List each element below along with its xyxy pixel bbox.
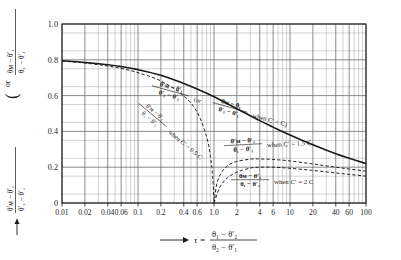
x-title-denominator: θ₂ − θ′₁ (212, 242, 237, 252)
x-tick-label: 20 (309, 208, 317, 217)
annotation-15c-numerator: θ′ᴍ − θ′₁ (230, 136, 254, 144)
x-tick-label: 0.01 (55, 208, 68, 217)
x-tick-label: 60 (345, 208, 353, 217)
y-title-upper-denominator: θ₁ − θ′₁ (17, 51, 26, 73)
y-tick-label: 0.6 (48, 92, 58, 101)
y-tick-label: 0 (54, 199, 58, 208)
x-title-numerator: θ₁ − θ′₂ (212, 229, 237, 239)
annotation-2c-denominator: θ₁ − θ′₁ (240, 180, 260, 187)
annotation-2c-condition: when C′ = 2 C (274, 178, 314, 185)
x-tick-label: 4 (258, 208, 262, 217)
annotation-2c-numerator: θᴍ − θ′₁ (239, 172, 261, 179)
annotation-15c-denominator: θ₁ − θ′₁ (233, 145, 253, 153)
y-title-paren-open: ( (2, 93, 21, 99)
x-tick-label: 0.1 (133, 208, 143, 217)
y-title-or: or (3, 80, 12, 87)
y-tick-label: 1.0 (48, 20, 58, 29)
x-tick-label: 0.2 (156, 208, 166, 217)
x-tick-label: 40 (332, 208, 340, 217)
y-tick-label: 0.2 (48, 163, 58, 172)
x-tick-label: 0.6 (192, 208, 202, 217)
x-tick-label: 0.06 (114, 208, 127, 217)
x-tick-label: 2 (235, 208, 239, 217)
chart-background (0, 0, 401, 260)
y-title-upper-numerator: θᴍ − θ′₁ (6, 49, 15, 73)
x-tick-label: 0.02 (78, 208, 91, 217)
y-title-lower-denominator: θ′₂ − θ′₁ (17, 187, 26, 211)
y-title-lower-numerator: θ′ᴍ − θ′₁ (6, 185, 15, 211)
x-title-tau: τ = (194, 235, 206, 245)
x-tick-label: 0.4 (179, 208, 189, 217)
y-tick-label: 0.4 (48, 127, 58, 136)
x-tick-label: 10 (286, 208, 294, 217)
y-tick-label: 0.8 (48, 56, 58, 65)
x-tick-label: 1.0 (209, 208, 219, 217)
chart-canvas: 0.010.020.040.060.10.20.40.61.0246102040… (0, 0, 401, 260)
x-tick-label: 100 (360, 208, 372, 217)
x-tick-label: 6 (271, 208, 275, 217)
x-tick-label: 0.04 (101, 208, 114, 217)
chart-figure: 0.010.020.040.060.10.20.40.61.0246102040… (0, 0, 401, 260)
